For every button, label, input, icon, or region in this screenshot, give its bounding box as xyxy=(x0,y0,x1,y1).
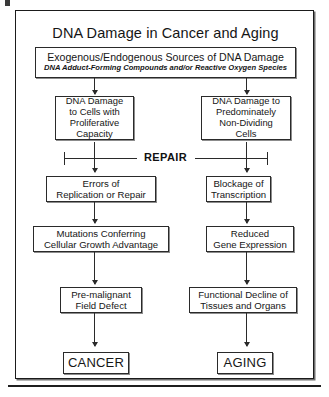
node-line: Field Defect xyxy=(75,300,126,311)
node-line: Pre-malignant xyxy=(71,289,131,300)
node-errors-replication: Errors of Replication or Repair xyxy=(46,176,156,202)
node-functional-decline: Functional Decline of Tissues and Organs xyxy=(189,287,297,313)
node-line: Blockage of xyxy=(213,178,263,189)
arrow-sources-to-nondividing xyxy=(246,77,247,94)
figure-title: DNA Damage in Cancer and Aging xyxy=(16,25,315,41)
arrow-decline-to-aging xyxy=(246,313,247,346)
node-blockage-transcription: Blockage of Transcription xyxy=(206,176,271,202)
node-sources-main: Exogenous/Endogenous Sources of DNA Dama… xyxy=(47,51,284,63)
repair-label: REPAIR xyxy=(16,151,315,163)
node-line: Cellular Growth Advantage xyxy=(44,239,158,250)
arrow-blockage-to-reduced xyxy=(246,202,247,223)
arrow-sources-to-proliferative xyxy=(94,77,95,94)
node-line: Tissues and Organs xyxy=(200,300,286,311)
node-line: Transcription xyxy=(211,189,266,200)
arrow-errors-to-mutations xyxy=(94,202,95,223)
node-aging-outcome: AGING xyxy=(217,352,273,374)
node-line: Cells xyxy=(236,129,257,140)
figure-frame: DNA Damage in Cancer and Aging Exogenous… xyxy=(15,10,314,379)
page-bottom-rule xyxy=(8,385,321,387)
node-cancer-outcome: CANCER xyxy=(63,352,129,374)
node-sources-sub: DNA Adduct-Forming Compounds and/or Reac… xyxy=(44,64,287,73)
arrow-premalignant-to-cancer xyxy=(94,313,95,346)
node-line: Functional Decline of xyxy=(198,289,288,300)
node-line: Reduced xyxy=(231,228,269,239)
node-line: CANCER xyxy=(68,355,124,370)
node-line: Gene Expression xyxy=(213,239,287,250)
arrow-mutations-to-premalignant xyxy=(94,252,95,284)
scan-corner-mark xyxy=(5,0,10,6)
node-premalignant-field-defect: Pre-malignant Field Defect xyxy=(60,287,142,313)
flowchart-figure: DNA Damage in Cancer and Aging Exogenous… xyxy=(0,0,329,397)
node-line: Mutations Conferring xyxy=(56,228,145,239)
node-dna-damage-nondividing: DNA Damage to Predominately Non-Dividing… xyxy=(201,96,291,140)
node-line: Replication or Repair xyxy=(56,189,146,200)
node-sources: Exogenous/Endogenous Sources of DNA Dama… xyxy=(35,47,296,78)
node-reduced-gene-expression: Reduced Gene Expression xyxy=(206,226,294,252)
arrow-reduced-to-decline xyxy=(246,252,247,284)
node-line: Capacity xyxy=(76,129,112,140)
node-line: AGING xyxy=(224,355,267,370)
node-line: Errors of xyxy=(83,178,120,189)
node-dna-damage-proliferative: DNA Damage to Cells with Proliferative C… xyxy=(55,96,134,140)
node-mutations-conferring: Mutations Conferring Cellular Growth Adv… xyxy=(33,226,169,252)
